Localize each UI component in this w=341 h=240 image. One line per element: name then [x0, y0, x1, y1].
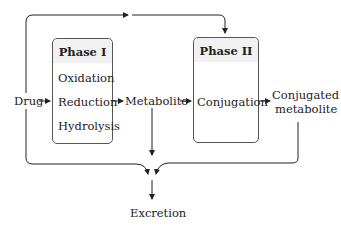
phase2-item-conjugation: Conjugation [197, 96, 268, 109]
phase1-item-hydrolysis: Hydrolysis [58, 120, 120, 133]
node-excretion: Excretion [130, 207, 186, 220]
phase2-box: Phase II Conjugation [193, 37, 259, 143]
phase2-title: Phase II [194, 38, 258, 62]
node-drug: Drug [14, 95, 44, 108]
node-metabolite: Metabolite [125, 95, 188, 108]
phase1-title: Phase I [53, 39, 112, 63]
phase1-item-oxidation: Oxidation [58, 72, 114, 85]
node-conjugated-line2: metabolite [275, 103, 337, 116]
phase1-item-reduction: Reduction [58, 96, 117, 109]
node-conjugated-line1: Conjugated [272, 89, 339, 102]
phase1-box: Phase I Oxidation Reduction Hydrolysis [52, 38, 113, 144]
